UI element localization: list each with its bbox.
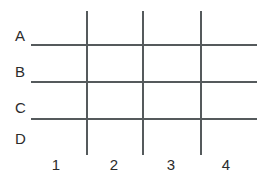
column-label-2: 2 [104, 157, 124, 172]
row-label-d: D [15, 131, 26, 146]
vertical-grid-line-1 [86, 11, 88, 155]
column-label-4: 4 [216, 157, 236, 172]
row-label-c: C [15, 100, 26, 115]
column-label-3: 3 [161, 157, 181, 172]
horizontal-grid-line-b [31, 81, 257, 83]
horizontal-grid-line-c [31, 118, 257, 120]
grid-diagram: A B C D 1 2 3 4 [0, 0, 264, 179]
horizontal-grid-line-a [31, 44, 257, 46]
row-label-a: A [15, 28, 25, 43]
vertical-grid-line-2 [142, 11, 144, 155]
column-label-1: 1 [46, 157, 66, 172]
vertical-grid-line-3 [200, 11, 202, 155]
row-label-b: B [15, 64, 25, 79]
